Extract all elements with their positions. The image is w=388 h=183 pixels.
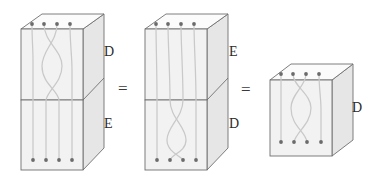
top-dot-3 — [304, 72, 308, 76]
box-middle-side-face — [207, 14, 228, 170]
bottom-dot-3 — [305, 140, 309, 144]
top-dot-2 — [42, 22, 46, 26]
top-dot-4 — [68, 22, 72, 26]
diagram-canvas: .edge{fill:none;stroke:#6f6f6f;stroke-wi… — [0, 0, 388, 183]
bottom-dot-2 — [292, 140, 296, 144]
top-dot-1 — [154, 22, 158, 26]
top-dot-1 — [279, 72, 283, 76]
bottom-dot-2 — [168, 158, 172, 162]
bottom-dot-1 — [279, 140, 283, 144]
bottom-dot-1 — [155, 158, 159, 162]
equals-sign-2: = — [241, 81, 251, 98]
box-middle-front-face-upper — [145, 29, 207, 100]
top-dot-3 — [55, 22, 59, 26]
label-box-left-bottom: E — [104, 117, 113, 131]
bottom-dot-1 — [31, 158, 35, 162]
box-right — [270, 64, 353, 156]
label-box-right: D — [352, 101, 362, 115]
equals-sign-1: = — [118, 80, 128, 97]
top-dot-4 — [317, 72, 321, 76]
label-box-left-top: D — [104, 45, 114, 59]
bottom-dot-3 — [57, 158, 61, 162]
box-left — [21, 14, 104, 170]
label-box-middle-top: E — [229, 45, 238, 59]
top-dot-2 — [166, 22, 170, 26]
top-dot-1 — [30, 22, 34, 26]
box-middle — [145, 14, 228, 170]
top-dot-4 — [192, 22, 196, 26]
braid-diagram-svg: .edge{fill:none;stroke:#6f6f6f;stroke-wi… — [0, 0, 388, 183]
bottom-dot-4 — [194, 158, 198, 162]
bottom-dot-4 — [319, 140, 323, 144]
bottom-dot-4 — [70, 158, 74, 162]
top-dot-2 — [291, 72, 295, 76]
bottom-dot-2 — [44, 158, 48, 162]
label-box-middle-bottom: D — [229, 117, 239, 131]
bottom-dot-3 — [181, 158, 185, 162]
top-dot-3 — [179, 22, 183, 26]
box-left-side-face — [83, 14, 104, 170]
box-right-front-face — [270, 80, 332, 156]
